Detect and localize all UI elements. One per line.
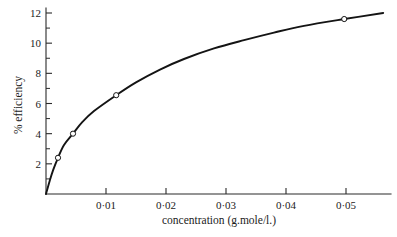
data-point-marker xyxy=(342,16,347,21)
data-markers xyxy=(55,16,346,160)
data-curve xyxy=(46,13,383,194)
y-axis-tick-labels: 24681012 xyxy=(30,7,42,170)
x-tick-label: 0·01 xyxy=(96,199,116,211)
y-tick-label: 12 xyxy=(30,7,41,19)
plot-area: 24681012 0·010·020·030·040·05 concentrat… xyxy=(0,0,397,237)
y-tick-label: 8 xyxy=(36,67,42,79)
data-point-marker xyxy=(70,131,75,136)
x-tick-label: 0·04 xyxy=(276,199,297,211)
data-point-marker xyxy=(55,155,60,160)
x-axis-tick-labels: 0·010·020·030·040·05 xyxy=(96,199,357,211)
y-axis-title: % efficiency xyxy=(12,76,25,134)
x-tick-label: 0·02 xyxy=(156,199,176,211)
y-tick-label: 4 xyxy=(36,128,42,140)
y-tick-label: 2 xyxy=(36,158,42,170)
data-point-marker xyxy=(114,93,119,98)
y-tick-label: 10 xyxy=(30,37,42,49)
chart-figure: 24681012 0·010·020·030·040·05 concentrat… xyxy=(0,0,397,237)
y-tick-label: 6 xyxy=(36,98,42,110)
x-axis-title: concentration (g.mole/l.) xyxy=(162,214,276,227)
axis-ticks xyxy=(46,13,346,194)
x-tick-label: 0·03 xyxy=(216,199,237,211)
x-tick-label: 0·05 xyxy=(336,199,357,211)
